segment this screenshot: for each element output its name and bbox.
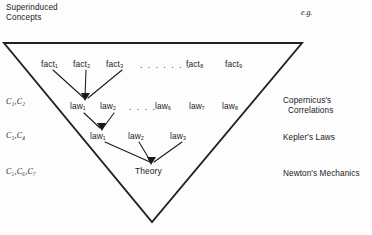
fact-row-ellipsis: . . . . . . . (140, 60, 191, 70)
diagram-canvas: Superinduced Concepts e.g. C₁,C₂ C₃,C₄ C… (0, 0, 372, 235)
node-law-upper-6: law₆ (155, 101, 171, 111)
example-label-newton: Newton's Mechanics (283, 169, 360, 179)
concept-label-c3-c4: C₃,C₄ (6, 131, 25, 140)
node-law-upper-7: law₇ (189, 101, 205, 111)
example-label-copernicus-line1: Copernicus's (283, 96, 333, 106)
node-theory: Theory (135, 166, 162, 176)
concept-label-c5-c6-c7: C₅,C₆,C₇ (6, 167, 36, 176)
node-fact-8: fact₈ (186, 59, 203, 69)
example-label-copernicus-line2: Correlations (288, 106, 333, 116)
node-law-lower-1: law₁ (90, 131, 106, 141)
triangle-and-arrows-graphic (0, 0, 372, 235)
node-fact-2: fact₂ (73, 59, 90, 69)
node-law-upper-8: law₈ (222, 101, 238, 111)
superinduced-concepts-heading: Superinduced Concepts (6, 3, 58, 22)
superinduced-concepts-line1: Superinduced (6, 3, 58, 13)
node-fact-1: fact₁ (41, 59, 58, 69)
concept-label-c1-c2: C₁,C₂ (6, 97, 25, 106)
node-law-lower-2: law₂ (128, 131, 144, 141)
node-fact-3: fact₃ (106, 59, 123, 69)
node-fact-9: fact₉ (225, 59, 242, 69)
node-law-lower-3: law₃ (170, 131, 186, 141)
law-to-theory-arrows (105, 142, 182, 162)
eg-label: e.g. (301, 8, 313, 17)
law-row-ellipsis: . . . . (129, 102, 157, 112)
example-label-copernicus: Copernicus's Correlations (283, 96, 333, 115)
superinduced-concepts-line2: Concepts (6, 13, 58, 23)
example-label-kepler: Kepler's Laws (283, 133, 335, 143)
node-law-upper-1: law₁ (70, 101, 86, 111)
node-law-upper-2: law₂ (100, 101, 116, 111)
